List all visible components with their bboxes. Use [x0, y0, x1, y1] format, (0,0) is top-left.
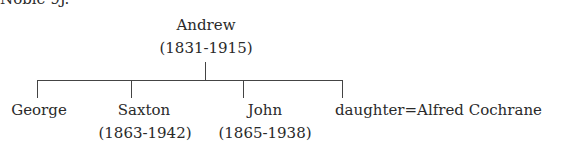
child-name-george: George — [11, 101, 67, 119]
header-fragment: Noble 9J. — [0, 0, 69, 8]
drop-line-daughter — [342, 80, 343, 98]
root-dates: (1831-1915) — [159, 39, 252, 57]
child-dates-john: (1865-1938) — [218, 124, 311, 142]
child-name-daughter: daughter=Alfred Cochrane — [335, 101, 542, 119]
root-name: Andrew — [177, 16, 236, 34]
drop-line-george — [37, 80, 38, 98]
drop-line-john — [243, 80, 244, 98]
root-stem-line — [205, 62, 206, 81]
sibling-bar-line — [37, 80, 343, 81]
child-name-saxton: Saxton — [118, 101, 170, 119]
child-name-john: John — [248, 101, 282, 119]
child-dates-saxton: (1863-1942) — [98, 124, 191, 142]
drop-line-saxton — [131, 80, 132, 98]
